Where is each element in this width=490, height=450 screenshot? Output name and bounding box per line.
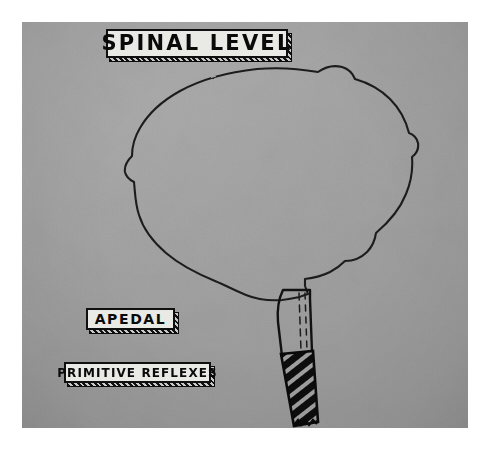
label-face: SPINAL LEVEL (106, 29, 288, 58)
spinal-cord-group (281, 351, 318, 426)
photo-plate: SPINAL LEVEL APEDAL PRIMITIVE REFLEXES (22, 22, 468, 428)
label-face: PRIMITIVE REFLEXES (64, 362, 211, 383)
cerebrum-group (125, 66, 418, 300)
figure-root: SPINAL LEVEL APEDAL PRIMITIVE REFLEXES (0, 0, 490, 450)
brainstem-tract-line-2 (305, 293, 307, 351)
label-face: APEDAL (86, 308, 175, 330)
label-spinal-level-text: SPINAL LEVEL (102, 33, 293, 54)
label-apedal: APEDAL (86, 308, 175, 330)
spinal-cord-hatched-body (281, 351, 318, 426)
label-apedal-text: APEDAL (95, 312, 167, 326)
brainstem-tract-line-1 (299, 293, 301, 351)
label-primitive-reflexes: PRIMITIVE REFLEXES (64, 362, 211, 383)
label-primitive-reflexes-text: PRIMITIVE REFLEXES (57, 367, 218, 379)
label-spinal-level: SPINAL LEVEL (106, 29, 288, 58)
cerebrum-outline (125, 66, 418, 300)
